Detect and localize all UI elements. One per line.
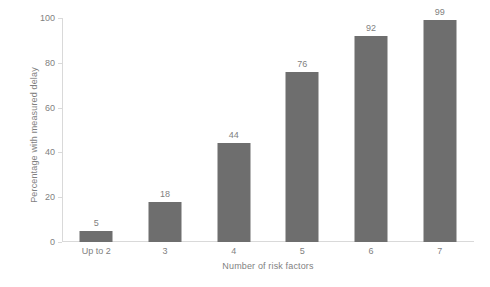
bar[interactable] <box>80 231 113 242</box>
plot-area: 020406080100 51844769299 <box>62 18 474 242</box>
y-axis-title: Percentage with measured delay <box>29 25 39 245</box>
bar-group: 5 <box>62 18 131 242</box>
x-axis-title: Number of risk factors <box>62 261 474 271</box>
bar[interactable] <box>286 72 319 242</box>
bar[interactable] <box>148 202 181 242</box>
x-axis-tick-label: 4 <box>231 246 236 256</box>
bar-value-label: 99 <box>435 7 445 17</box>
y-axis-tick-label: 80 <box>45 58 55 68</box>
y-axis-tick-label: 20 <box>45 192 55 202</box>
y-axis-tick-label: 100 <box>40 13 55 23</box>
bar-group: 92 <box>337 18 406 242</box>
y-axis-tick-label: 0 <box>50 237 55 247</box>
x-axis-tick-label: 6 <box>368 246 373 256</box>
x-axis-tick-label: Up to 2 <box>82 246 111 256</box>
bar-value-label: 76 <box>297 59 307 69</box>
bar-chart: Percentage with measured delay 020406080… <box>0 0 490 287</box>
bar[interactable] <box>423 20 456 242</box>
bar-group: 76 <box>268 18 337 242</box>
bar-value-label: 44 <box>229 130 239 140</box>
bar[interactable] <box>354 36 387 242</box>
x-axis-tick-label: 3 <box>162 246 167 256</box>
bar-value-label: 18 <box>160 189 170 199</box>
bar[interactable] <box>217 143 250 242</box>
y-axis-tick-label: 60 <box>45 103 55 113</box>
bar-group: 44 <box>199 18 268 242</box>
y-axis-tick-mark <box>58 242 62 243</box>
bar-group: 18 <box>131 18 200 242</box>
x-axis-ticks: Up to 234567 <box>62 246 474 262</box>
bar-value-label: 5 <box>94 218 99 228</box>
x-axis-tick-label: 7 <box>437 246 442 256</box>
x-axis-tick-label: 5 <box>300 246 305 256</box>
y-axis-tick-label: 40 <box>45 147 55 157</box>
bar-value-label: 92 <box>366 23 376 33</box>
bars-layer: 51844769299 <box>62 18 474 242</box>
bar-group: 99 <box>405 18 474 242</box>
